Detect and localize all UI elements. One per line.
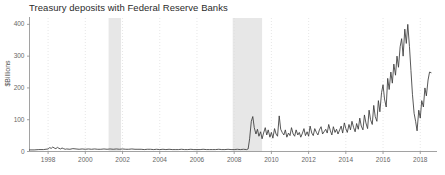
tick-marks [27,24,420,154]
chart-container: Treasury deposits with Federal Reserve B… [0,0,445,175]
plot-area [0,0,445,175]
recession-bands [109,18,263,152]
data-series-line [30,24,432,150]
